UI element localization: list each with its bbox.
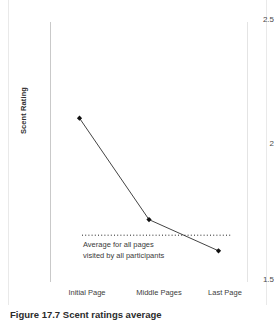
annotation-line-2: visited by all participants bbox=[83, 251, 164, 262]
average-line-annotation: Average for all pages visited by all par… bbox=[83, 240, 164, 261]
data-point-last-page bbox=[216, 248, 221, 253]
series-line-scent-rating bbox=[80, 118, 219, 251]
line-chart: Scent Rating 2.5 2 1.5 Initial Page Midd… bbox=[0, 0, 274, 305]
data-point-markers bbox=[77, 116, 221, 254]
annotation-line-1: Average for all pages bbox=[83, 240, 164, 251]
figure-caption: Figure 17.7 Scent ratings average bbox=[10, 309, 266, 320]
figure-container: Scent Rating 2.5 2 1.5 Initial Page Midd… bbox=[0, 0, 274, 320]
